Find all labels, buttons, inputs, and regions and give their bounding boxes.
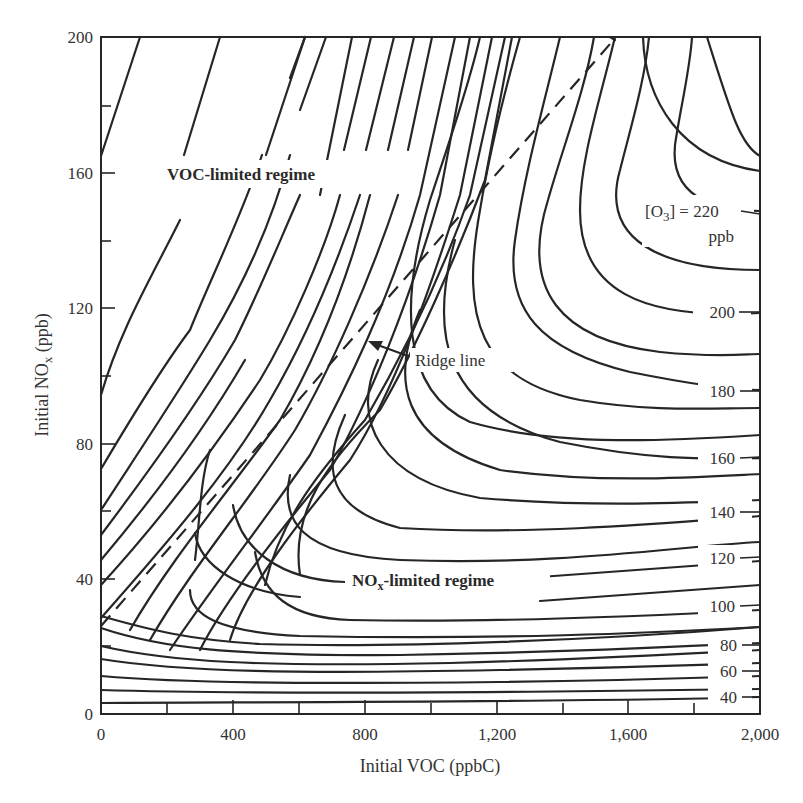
svg-text:120: 120 <box>68 299 94 318</box>
svg-text:160: 160 <box>710 449 736 468</box>
svg-text:400: 400 <box>220 725 246 744</box>
svg-text:200: 200 <box>710 303 736 322</box>
svg-text:80: 80 <box>720 636 737 655</box>
contours-voc-diagonal <box>101 37 512 650</box>
svg-text:140: 140 <box>710 503 736 522</box>
y-axis-title: Initial NOx (ppb) <box>32 313 55 437</box>
svg-text:180: 180 <box>710 382 736 401</box>
svg-text:1,600: 1,600 <box>609 725 647 744</box>
svg-text:120: 120 <box>710 549 736 568</box>
ozone-isopleth-chart: 0 40 80 120 160 200 0 400 800 1,200 1,60… <box>0 0 803 803</box>
svg-text:0: 0 <box>97 725 106 744</box>
svg-text:2,000: 2,000 <box>741 725 779 744</box>
x-axis-title: Initial VOC (ppbC) <box>360 756 501 777</box>
svg-text:80: 80 <box>76 435 93 454</box>
voc-limited-regime-label: VOC-limited regime <box>167 165 316 184</box>
o3-220-label: [O3] = 220 <box>645 202 719 224</box>
ridge-arrow <box>368 341 408 356</box>
svg-text:800: 800 <box>352 725 378 744</box>
svg-text:40: 40 <box>720 688 737 707</box>
ridge-line-label: Ridge line <box>415 351 485 370</box>
contours-nox-band <box>195 450 760 621</box>
svg-text:60: 60 <box>720 662 737 681</box>
svg-text:ppb: ppb <box>709 227 735 246</box>
svg-text:100: 100 <box>710 597 736 616</box>
svg-text:200: 200 <box>68 28 94 47</box>
svg-text:160: 160 <box>68 164 94 183</box>
x-tick-labels: 0 400 800 1,200 1,600 2,000 <box>97 725 779 744</box>
svg-text:0: 0 <box>85 705 94 724</box>
ridge-line <box>101 44 610 626</box>
svg-text:1,200: 1,200 <box>478 725 516 744</box>
y-tick-labels: 0 40 80 120 160 200 <box>68 28 94 724</box>
nox-limited-regime-label: NOx-limited regime <box>352 571 495 593</box>
svg-text:40: 40 <box>76 570 93 589</box>
